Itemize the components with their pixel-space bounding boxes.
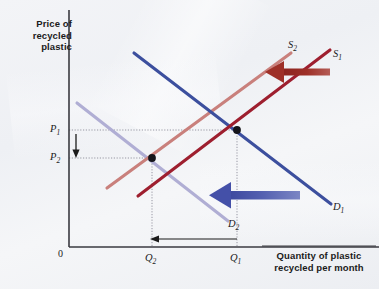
curve-label-d1: D1 [333, 201, 344, 215]
curve-d2 [77, 103, 228, 221]
tick-label-p2: P2 [50, 151, 60, 165]
curve-label-s1: S1 [333, 48, 342, 62]
curve-label-d2: D2 [228, 218, 239, 232]
quantity-change-arrow [150, 236, 237, 243]
curve-s2 [107, 53, 291, 188]
x-axis-label: Quantity of plastic recycled per month [262, 250, 376, 273]
tick-label-p1: P1 [50, 123, 60, 137]
figure-canvas: Price of recycled plastic Quantity of pl… [0, 0, 379, 289]
origin-label: 0 [58, 248, 63, 259]
y-axis-label: Price of recycled plastic [6, 18, 72, 53]
tick-label-q1: Q1 [230, 252, 241, 266]
demand-shift-arrow [209, 182, 300, 209]
curve-label-s2: S2 [288, 39, 297, 53]
curve-d1 [134, 53, 331, 204]
price-change-arrow [72, 134, 79, 158]
equilibrium-point-2 [148, 154, 156, 162]
equilibrium-point-1 [233, 126, 241, 134]
guide-lines [69, 130, 237, 247]
tick-label-q2: Q2 [145, 252, 156, 266]
